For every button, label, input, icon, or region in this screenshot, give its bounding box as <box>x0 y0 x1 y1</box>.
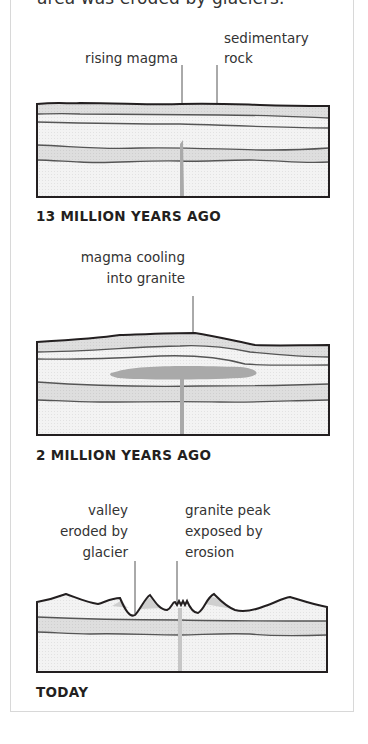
diagram-13-million-years-ago <box>37 65 329 197</box>
label-valley: valley <box>30 500 128 521</box>
label-eroded-by: eroded by <box>30 521 128 542</box>
label-glacier: glacier <box>30 542 128 563</box>
label-granite-peak: granite peak <box>185 500 271 521</box>
label-exposed-by: exposed by <box>185 521 263 542</box>
diagram-2-million-years-ago <box>37 296 329 435</box>
label-magma-cooling: magma cooling <box>40 247 185 268</box>
caption-13-million-years-ago: 13 MILLION YEARS AGO <box>36 208 221 224</box>
cross-section-diagrams <box>0 0 368 744</box>
caption-2-million-years-ago: 2 MILLION YEARS AGO <box>36 447 211 463</box>
label-into-granite: into granite <box>40 268 185 289</box>
caption-today: TODAY <box>36 684 88 700</box>
label-erosion: erosion <box>185 542 234 563</box>
diagram-today <box>37 561 327 672</box>
